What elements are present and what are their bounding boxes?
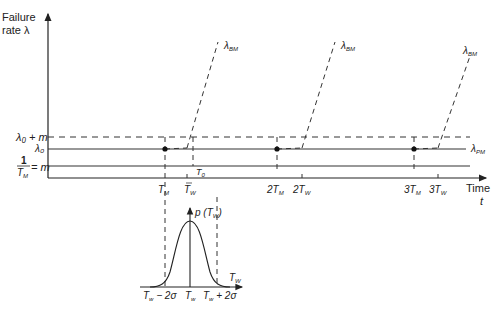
dist-y-label: p (TW) [194, 207, 222, 219]
y-axis-label-line1: Failure [2, 11, 36, 23]
bm-ramp-2 [277, 42, 335, 149]
tick-tw: TW [184, 184, 197, 196]
tick-2tw: 2TW [292, 184, 312, 196]
tick-3tm: 3TM [404, 184, 421, 196]
tick-3tw: 3TW [429, 184, 448, 196]
x-axis-label-line2: t [480, 195, 484, 207]
bm-ramp-1 [165, 42, 218, 149]
level-lambda0-plus-m: λ₀ + m [15, 131, 48, 143]
lambda-bm-label-1: λBM [223, 40, 238, 52]
level-lambda0: λ₀ [34, 143, 44, 154]
bm-ramp-3 [414, 56, 470, 149]
failure-rate-diagram: Failure rate λ Time t λ₀ + m λ₀ 1 TM = m… [0, 0, 501, 313]
tick-2tm: 2TM [266, 184, 284, 196]
lambda-pm-label: λPM [470, 143, 485, 155]
pm-point-2 [274, 146, 279, 151]
x-axis-label-line1: Time [466, 182, 490, 194]
dist-right-bound: Tw + 2σ [203, 290, 237, 302]
level-m-numerator: 1 [21, 155, 27, 166]
pm-point-1 [162, 146, 167, 151]
pm-point-3 [411, 146, 416, 151]
tw-distribution-inset: p (TW) TW Tw − 2σ Tw Tw + 2σ [140, 207, 242, 302]
dist-left-bound: Tw − 2σ [143, 290, 177, 302]
level-m-denominator: TM [17, 167, 28, 179]
tick-tm: TM [158, 184, 169, 196]
lambda-bm-label-2: λBM [340, 40, 355, 52]
dist-x-label: TW [229, 272, 242, 284]
y-axis-label-line2: rate λ [2, 24, 30, 36]
lambda-bm-label-3: λBM [462, 45, 477, 57]
level-m-equals: = m [31, 161, 50, 173]
dist-center: Tw [185, 290, 196, 302]
tick-t0: T0 [196, 167, 206, 178]
